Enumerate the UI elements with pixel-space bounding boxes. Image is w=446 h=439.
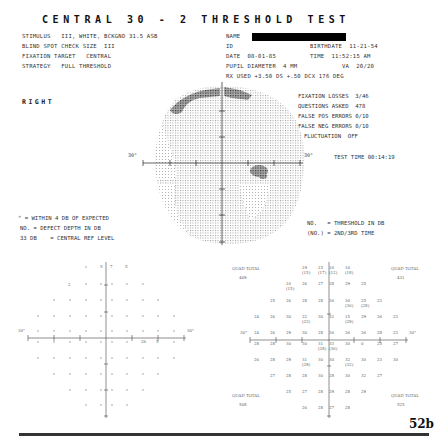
- threshold-repeat-value: (18): [345, 270, 353, 275]
- threshold-value: 27: [318, 281, 323, 286]
- threshold-value: 28: [270, 357, 275, 362]
- threshold-value: 26: [361, 330, 366, 335]
- threshold-value: 30: [302, 330, 307, 335]
- threshold-repeat-value: (29): [302, 362, 310, 367]
- footer-rule: [19, 433, 429, 436]
- threshold-value: 23: [393, 330, 398, 335]
- threshold-value: 25: [361, 281, 366, 286]
- threshold-repeat-value: (32): [345, 362, 353, 367]
- threshold-value: 26: [286, 298, 291, 303]
- threshold-repeat-value: (15): [286, 286, 294, 291]
- threshold-value: 28: [318, 389, 323, 394]
- page-number: 52b: [409, 417, 434, 431]
- threshold-value: 27: [302, 389, 307, 394]
- threshold-value: 26: [329, 298, 334, 303]
- threshold-repeat-value: (29): [345, 319, 353, 324]
- threshold-repeat-value: (28): [318, 346, 326, 351]
- threshold-value: 28: [345, 389, 350, 394]
- threshold-value: 27: [270, 373, 275, 378]
- threshold-value: 24: [254, 314, 259, 319]
- quad-total-value: 508: [239, 402, 247, 407]
- threshold-value: 28: [286, 373, 291, 378]
- threshold-value: 28: [254, 341, 259, 346]
- threshold-value: 23: [377, 298, 382, 303]
- quad-total-label: QUAD TOTAL: [232, 393, 260, 398]
- threshold-value: 28: [302, 373, 307, 378]
- threshold-value: 26: [254, 357, 259, 362]
- threshold-value: 30: [286, 314, 291, 319]
- threshold-value: 26: [302, 405, 307, 410]
- threshold-value: 25: [270, 298, 275, 303]
- quad-total-label: QUAD TOTAL: [232, 266, 260, 271]
- threshold-value: 32: [361, 373, 366, 378]
- threshold-repeat-value: (15): [302, 270, 310, 275]
- threshold-value: 29: [361, 389, 366, 394]
- threshold-value: 23: [393, 314, 398, 319]
- threshold-value: 28: [377, 330, 382, 335]
- quad-total-value: 431: [397, 275, 405, 280]
- threshold-value: 26: [270, 314, 275, 319]
- threshold-repeat-value: (17): [318, 270, 326, 275]
- threshold-value: 27: [329, 405, 334, 410]
- threshold-value: 25: [286, 389, 291, 394]
- threshold-value: 26: [302, 281, 307, 286]
- threshold-value: 28: [329, 373, 334, 378]
- threshold-value: 30: [318, 357, 323, 362]
- threshold-value: 26: [329, 330, 334, 335]
- threshold-value: 25: [377, 341, 382, 346]
- quad-total-value: 525: [397, 402, 405, 407]
- threshold-value: 30: [318, 373, 323, 378]
- threshold-value: 30: [393, 357, 398, 362]
- threshold-value: 26: [377, 314, 382, 319]
- threshold-repeat-value: (23): [302, 319, 310, 324]
- threshold-value: 32: [329, 314, 334, 319]
- threshold-axis-label-right: 30°: [409, 330, 416, 335]
- threshold-value: 28: [318, 405, 323, 410]
- quad-total-value: 469: [239, 275, 247, 280]
- threshold-value: 30: [361, 357, 366, 362]
- quad-total-label: QUAD TOTAL: [391, 393, 419, 398]
- threshold-value: 28: [270, 341, 275, 346]
- quad-total-label: QUAD TOTAL: [391, 266, 419, 271]
- threshold-value: 28: [318, 298, 323, 303]
- threshold-value: 27: [377, 373, 382, 378]
- threshold-value: 30: [318, 314, 323, 319]
- threshold-value: 28: [318, 330, 323, 335]
- threshold-value: 30: [302, 341, 307, 346]
- threshold-value: 0: [361, 341, 364, 346]
- threshold-value: 28: [302, 298, 307, 303]
- threshold-repeat-value: (12): [329, 270, 337, 275]
- threshold-value: 24: [254, 330, 259, 335]
- threshold-axis-label-left: 30°: [240, 330, 247, 335]
- threshold-value: 23: [377, 357, 382, 362]
- threshold-value: 29: [329, 389, 334, 394]
- threshold-value: 27: [393, 341, 398, 346]
- threshold-repeat-value: (30): [345, 303, 353, 308]
- threshold-value: 29: [361, 314, 366, 319]
- threshold-value: 30: [329, 357, 334, 362]
- threshold-value: 30: [286, 341, 291, 346]
- threshold-value: 29: [345, 281, 350, 286]
- threshold-value: 30: [345, 341, 350, 346]
- threshold-value: 26: [345, 330, 350, 335]
- threshold-value: 30: [345, 373, 350, 378]
- threshold-value: 29: [286, 357, 291, 362]
- threshold-value: 28: [345, 405, 350, 410]
- threshold-repeat-value: (28): [361, 303, 369, 308]
- threshold-value: 26: [270, 330, 275, 335]
- threshold-repeat-value: (30): [329, 346, 337, 351]
- threshold-value: 29: [286, 330, 291, 335]
- threshold-value: 28: [329, 281, 334, 286]
